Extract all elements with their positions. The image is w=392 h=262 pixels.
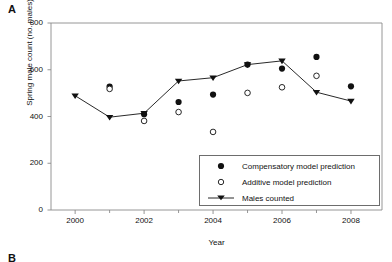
data-point-marker bbox=[210, 129, 216, 135]
series-2 bbox=[107, 73, 319, 135]
data-point-marker bbox=[348, 83, 354, 89]
data-point-marker bbox=[71, 93, 78, 99]
data-point-marker bbox=[175, 99, 181, 105]
data-point-marker bbox=[347, 99, 354, 105]
legend-entry-additive: Additive model prediction bbox=[200, 175, 381, 189]
data-point-marker bbox=[313, 54, 319, 60]
data-point-marker bbox=[245, 90, 251, 96]
data-point-marker bbox=[106, 115, 113, 121]
data-point-marker bbox=[141, 118, 147, 124]
series-line bbox=[75, 61, 351, 117]
legend-label-compensatory: Compensatory model prediction bbox=[242, 162, 355, 171]
data-point-marker bbox=[279, 84, 285, 90]
plot-canvas bbox=[0, 0, 392, 262]
legend-entry-compensatory: Compensatory model prediction bbox=[200, 159, 381, 173]
data-point-marker bbox=[107, 86, 113, 92]
data-point-marker bbox=[176, 109, 182, 115]
data-point-marker bbox=[210, 91, 216, 97]
data-point-marker bbox=[279, 65, 285, 71]
legend-label-additive: Additive model prediction bbox=[242, 178, 331, 187]
legend-marker-triangle-line-icon bbox=[200, 191, 242, 205]
legend-marker-filled-circle-icon bbox=[200, 159, 242, 173]
legend-label-males-counted: Males counted bbox=[242, 194, 294, 203]
series-1 bbox=[107, 54, 355, 117]
legend-marker-open-circle-icon bbox=[200, 175, 242, 189]
figure-panel-a: A B Spring male count (no. males) Year 0… bbox=[0, 0, 392, 262]
series-3 bbox=[71, 59, 354, 121]
chart-legend: Compensatory model prediction Additive m… bbox=[199, 155, 380, 206]
data-point-marker bbox=[314, 73, 320, 79]
legend-entry-males-counted: Males counted bbox=[200, 191, 381, 205]
